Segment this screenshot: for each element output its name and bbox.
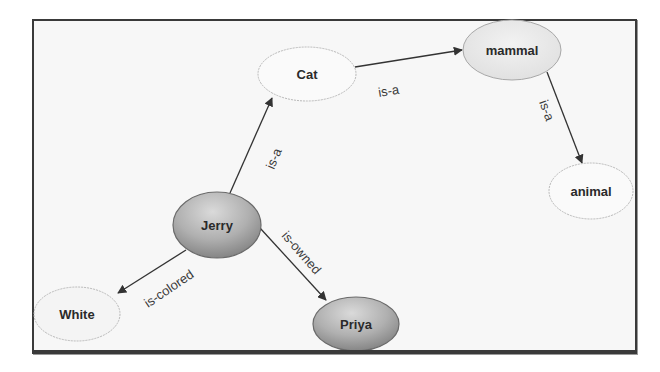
node-label-mammal: mammal [486,43,539,58]
edge-label-is-a: is-a [263,145,285,171]
edge-jerry-white: is-colored [118,250,196,310]
edge-jerry-priya: is-owned [260,228,326,300]
node-cat: Cat [258,47,356,101]
node-label-jerry: Jerry [201,218,234,233]
edge-label-is-a: is-a [536,98,558,124]
arrow-line [355,50,462,67]
edge-label-is-owned: is-owned [279,228,324,277]
edge-cat-mammal: is-a [355,50,462,100]
node-mammal: mammal [463,20,561,80]
edge-label-is-a: is-a [377,82,401,100]
node-priya: Priya [313,297,399,351]
node-label-priya: Priya [340,317,373,332]
edge-mammal-animal: is-a [536,72,582,163]
node-label-animal: animal [570,184,611,199]
node-animal: animal [549,163,633,219]
arrow-line [230,98,272,193]
node-jerry: Jerry [173,192,261,258]
semantic-network-diagram: is-a is-a is-a is-colored is-owned Cat m… [0,0,660,372]
node-label-white: White [59,307,94,322]
node-label-cat: Cat [297,67,319,82]
edge-jerry-cat: is-a [230,98,285,193]
node-white: White [34,287,120,341]
